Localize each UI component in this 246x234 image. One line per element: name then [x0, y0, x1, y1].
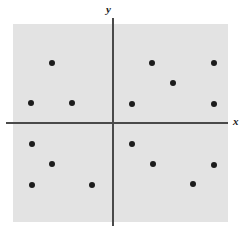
data-point — [211, 162, 217, 168]
data-point — [29, 141, 35, 147]
data-point — [190, 181, 196, 187]
data-point — [150, 161, 156, 167]
y-axis-line — [112, 18, 114, 226]
x-axis-label: x — [233, 116, 239, 127]
data-point — [49, 60, 55, 66]
data-point — [129, 141, 135, 147]
data-point — [211, 101, 217, 107]
scatter-plot-figure: y x — [0, 0, 246, 234]
data-point — [69, 100, 75, 106]
data-point — [49, 161, 55, 167]
data-point — [29, 182, 35, 188]
data-point — [89, 182, 95, 188]
x-axis-line — [6, 122, 228, 124]
data-point — [211, 60, 217, 66]
y-axis-label: y — [106, 4, 111, 15]
data-point — [129, 101, 135, 107]
data-point — [149, 60, 155, 66]
data-point — [28, 100, 34, 106]
data-point — [170, 80, 176, 86]
